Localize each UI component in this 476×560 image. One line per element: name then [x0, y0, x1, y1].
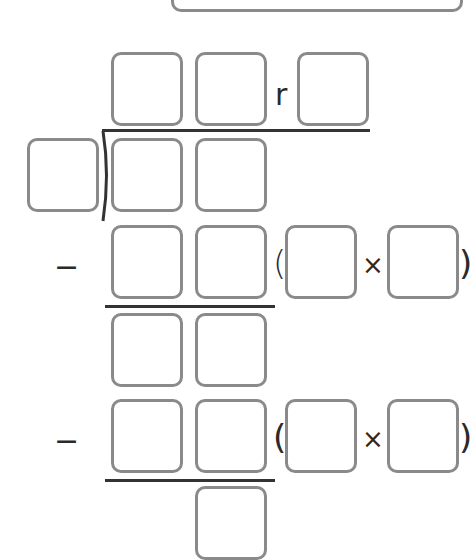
step-2-difference-digit-1-input[interactable]: [198, 489, 264, 557]
step-2-underline: [105, 479, 275, 482]
step-1-difference-digit-1-input[interactable]: [114, 316, 180, 384]
dividend-digit-2-input[interactable]: [198, 141, 264, 209]
step-2-factor-b-input[interactable]: [390, 402, 456, 470]
step-2-minus-sign: −: [54, 426, 79, 456]
divisor-input[interactable]: [30, 141, 96, 209]
dividend-digit-2-box[interactable]: [195, 138, 267, 212]
remainder-label: r: [275, 80, 287, 110]
quotient-digit-2-input[interactable]: [198, 55, 264, 123]
step-1-subtrahend-digit-1-box[interactable]: [111, 225, 183, 299]
answer-input[interactable]: [174, 0, 460, 9]
step-1-subtrahend-digit-1-input[interactable]: [114, 228, 180, 296]
step-2-subtrahend-digit-2-box[interactable]: [195, 399, 267, 473]
step-1-difference-digit-2-input[interactable]: [198, 316, 264, 384]
step-1-subtrahend-digit-2-box[interactable]: [195, 225, 267, 299]
step-1-factor-b-input[interactable]: [390, 228, 456, 296]
step-2-factor-a-box[interactable]: [285, 399, 357, 473]
remainder-box[interactable]: [297, 52, 369, 126]
answer-box[interactable]: [171, 0, 463, 12]
step-1-factor-a-box[interactable]: [285, 225, 357, 299]
step-1-difference-digit-1-box[interactable]: [111, 313, 183, 387]
step-2-factor-b-box[interactable]: [387, 399, 459, 473]
step-1-times-sign: ×: [362, 252, 384, 278]
step-1-factor-b-box[interactable]: [387, 225, 459, 299]
step-2-times-sign: ×: [362, 426, 384, 452]
divisor-box[interactable]: [27, 138, 99, 212]
step-1-factor-a-input[interactable]: [288, 228, 354, 296]
step-2-subtrahend-digit-1-box[interactable]: [111, 399, 183, 473]
step-2-subtrahend-digit-2-input[interactable]: [198, 402, 264, 470]
step-2-factor-a-input[interactable]: [288, 402, 354, 470]
step-1-difference-digit-2-box[interactable]: [195, 313, 267, 387]
dividend-digit-1-input[interactable]: [114, 141, 180, 209]
step-2-difference-digit-1-box[interactable]: [195, 486, 267, 560]
quotient-digit-2-box[interactable]: [195, 52, 267, 126]
step-2-subtrahend-digit-1-input[interactable]: [114, 402, 180, 470]
quotient-digit-1-box[interactable]: [111, 52, 183, 126]
dividend-digit-1-box[interactable]: [111, 138, 183, 212]
step-1-minus-sign: −: [54, 252, 79, 282]
quotient-digit-1-input[interactable]: [114, 55, 180, 123]
step-1-underline: [105, 305, 275, 308]
remainder-input[interactable]: [300, 55, 366, 123]
step-1-close-paren: ): [459, 246, 472, 280]
step-2-close-paren: ): [459, 420, 472, 454]
division-overline: [102, 129, 370, 132]
step-1-subtrahend-digit-2-input[interactable]: [198, 228, 264, 296]
